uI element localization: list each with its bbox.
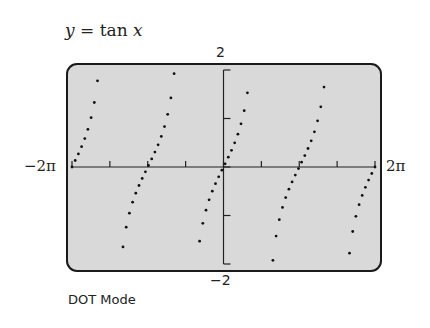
ymin-label: −2 xyxy=(210,272,231,288)
xmin-label: −2π xyxy=(24,157,56,175)
ymax-label: 2 xyxy=(216,44,225,60)
xmax-label: 2π xyxy=(386,157,405,175)
mode-label: DOT Mode xyxy=(68,292,136,307)
